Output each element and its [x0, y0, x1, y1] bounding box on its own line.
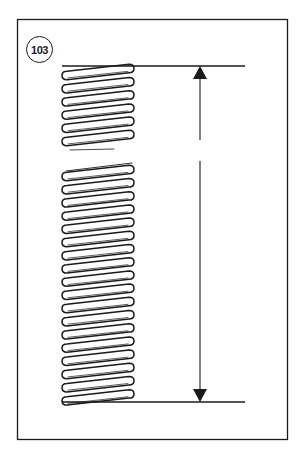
arrow-up-icon — [193, 66, 207, 79]
coil-spring — [62, 64, 134, 405]
arrow-down-icon — [193, 389, 207, 402]
frame-border — [18, 20, 288, 440]
spring-diagram — [0, 0, 296, 454]
